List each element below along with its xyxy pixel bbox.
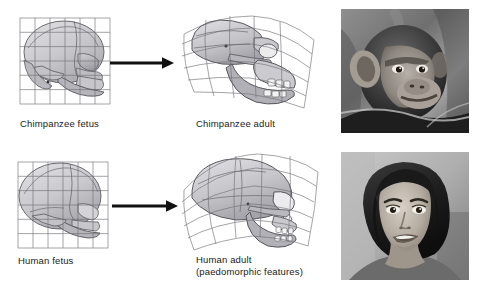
human-fetus-skull-drawing xyxy=(16,160,116,252)
human-photo xyxy=(341,152,469,280)
chimp-fetus-skull-drawing xyxy=(18,16,116,108)
caption-chimp-fetus: Chimpanzee fetus xyxy=(20,118,140,130)
arrow-human xyxy=(110,197,182,219)
arrow-right-icon xyxy=(110,197,182,215)
figure-paedomorphosis: Chimpanzee fetus xyxy=(0,0,483,295)
caption-chimp-adult: Chimpanzee adult xyxy=(196,118,336,130)
caption-human-adult: Human adult (paedomorphic features) xyxy=(196,254,356,278)
chimp-photo xyxy=(341,9,469,133)
panel-chimp-fetus xyxy=(18,16,116,112)
human-portrait-image xyxy=(341,152,469,280)
panel-human-adult xyxy=(178,150,330,262)
arrow-right-icon xyxy=(108,54,178,72)
human-adult-skull-drawing xyxy=(178,150,330,258)
chimpanzee-portrait-image xyxy=(341,9,469,133)
panel-chimp-adult xyxy=(176,10,326,119)
arrow-chimp xyxy=(108,54,178,76)
chimp-adult-skull-drawing xyxy=(176,10,326,115)
caption-human-fetus: Human fetus xyxy=(18,255,138,267)
panel-human-fetus xyxy=(16,160,116,256)
